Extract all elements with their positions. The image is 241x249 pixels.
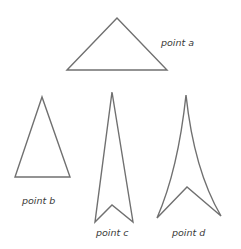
arrowhead-point-c (95, 92, 133, 222)
triangle-point-a (67, 18, 167, 70)
label-point-b: point b (22, 196, 55, 206)
diagram-canvas (0, 0, 241, 249)
triangle-point-b (15, 97, 70, 177)
label-point-c: point c (96, 228, 128, 238)
arrowhead-point-d (157, 95, 221, 218)
label-point-a: point a (161, 38, 194, 48)
label-point-d: point d (172, 228, 205, 238)
